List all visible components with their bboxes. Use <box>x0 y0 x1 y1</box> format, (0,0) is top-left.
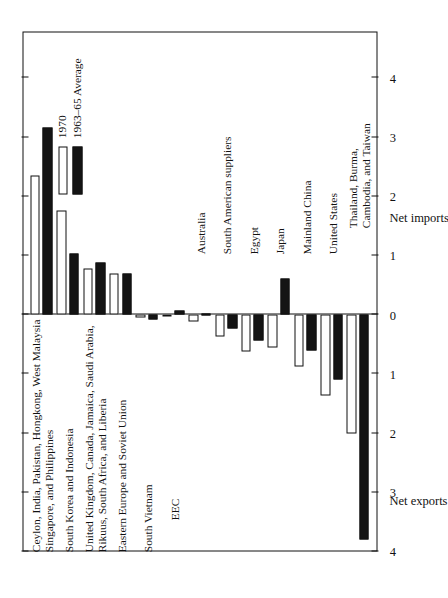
bar-1963-65-average <box>333 314 342 379</box>
axis-tick <box>21 550 28 551</box>
category-label-line: Mainland China <box>300 180 313 254</box>
category-label: EEC <box>168 498 181 520</box>
category-label-line: Rikuus, South Africa, and Liberia <box>95 325 108 552</box>
category-label-line: United States <box>326 193 339 254</box>
bar-1963-65-average <box>42 127 51 313</box>
axis-tick <box>21 76 28 77</box>
bar-1970 <box>215 314 224 336</box>
category-label: Mainland China <box>300 180 313 254</box>
category-label-line: South American suppliers <box>220 136 233 254</box>
bar-1970 <box>162 314 171 316</box>
bar-1963-65-average <box>122 273 131 313</box>
category-label: Japan <box>273 228 286 254</box>
axis-tick <box>371 313 378 314</box>
category-label-line: United Kingdom, Canada, Jamaica, Saudi A… <box>82 325 95 552</box>
legend-label-1963-65-average: 1963–65 Average <box>70 58 82 138</box>
category-label-line: Ceylon, India, Pakistan, Hongkong, West … <box>29 319 42 552</box>
axis-tick <box>21 491 28 492</box>
bar-1963-65-average <box>253 314 262 341</box>
category-label-line: Singapore, and Philippines <box>42 319 55 552</box>
axis-tick-label: 1 <box>389 250 395 263</box>
axis-tick-label: 0 <box>389 309 395 322</box>
axis-tick <box>371 195 378 196</box>
category-label-line: EEC <box>168 498 181 520</box>
category-label: Egypt <box>247 226 260 253</box>
category-label: Australia <box>194 212 207 254</box>
category-label-line: Cambodia, and Taiwan <box>359 123 372 228</box>
category-label: United States <box>326 193 339 254</box>
axis-tick <box>21 195 28 196</box>
bar-1970 <box>83 268 92 314</box>
axis-tick <box>371 372 378 373</box>
bar-1970 <box>346 314 355 434</box>
category-label-line: Thailand, Burma, <box>346 123 359 228</box>
axis-tick-label: 3 <box>389 132 395 145</box>
axis-tick-label: 2 <box>389 428 395 441</box>
bar-1963-65-average <box>174 310 183 314</box>
category-label-line: South Korea and Indonesia <box>62 428 75 552</box>
category-label: United Kingdom, Canada, Jamaica, Saudi A… <box>82 325 108 552</box>
bar-1970 <box>30 175 39 314</box>
axis-tick <box>371 76 378 77</box>
category-label-line: Japan <box>273 228 286 254</box>
category-label-line: Egypt <box>247 226 260 253</box>
axis-tick-label: 2 <box>389 191 395 204</box>
axis-tick-label: 4 <box>389 73 395 86</box>
category-label: Eastern Europe and Soviet Union <box>115 399 128 551</box>
axis-tick <box>371 432 378 433</box>
category-label: Thailand, Burma,Cambodia, and Taiwan <box>346 123 372 228</box>
bar-1970 <box>188 314 197 322</box>
axis-tick <box>21 136 28 137</box>
bar-1970 <box>56 210 65 314</box>
axis-tick <box>21 313 28 314</box>
axis-tick <box>371 491 378 492</box>
bar-1963-65-average <box>201 313 210 315</box>
category-label-line: Eastern Europe and Soviet Union <box>115 399 128 551</box>
axis-tick <box>21 254 28 255</box>
axis-tick <box>21 372 28 373</box>
axis-tick-label: 4 <box>389 546 395 559</box>
legend-swatch-1963-65-average <box>72 146 81 194</box>
bar-1963-65-average <box>95 262 104 314</box>
axis-tick <box>21 432 28 433</box>
category-label-line: South Vietnam <box>141 484 154 552</box>
bar-1970 <box>135 314 144 318</box>
axis-tick <box>371 254 378 255</box>
bar-1963-65-average <box>69 253 78 313</box>
category-label: South Korea and Indonesia <box>62 428 75 552</box>
bar-1963-65-average <box>148 314 157 319</box>
bar-1963-65-average <box>227 314 236 329</box>
bar-1963-65-average <box>306 314 315 351</box>
bar-1970 <box>109 273 118 313</box>
category-label: Ceylon, India, Pakistan, Hongkong, West … <box>29 319 55 552</box>
bar-1963-65-average <box>280 278 289 314</box>
category-label: South Vietnam <box>141 484 154 552</box>
axis-tick <box>371 136 378 137</box>
bar-1970 <box>320 314 329 396</box>
axis-tick <box>371 550 378 551</box>
axis-tick-label: 1 <box>389 369 395 382</box>
bar-1970 <box>294 314 303 366</box>
category-label-line: Australia <box>194 212 207 254</box>
bar-1963-65-average <box>359 314 368 539</box>
legend-label-1970: 1970 <box>55 115 67 138</box>
legend-swatch-1970 <box>58 146 67 194</box>
category-label: South American suppliers <box>220 136 233 254</box>
bar-1970 <box>241 314 250 351</box>
axis-title-net-imports: Net imports <box>389 210 448 225</box>
bar-1970 <box>267 314 276 348</box>
axis-title-net-exports: Net exports <box>389 493 447 508</box>
